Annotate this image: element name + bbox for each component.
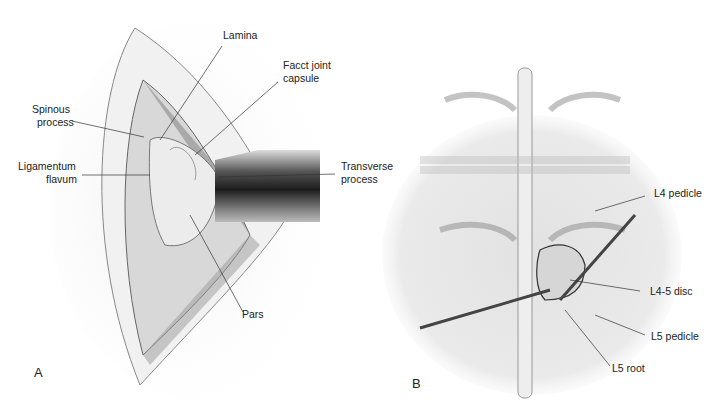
label-l4-pedicle: L4 pedicle (654, 187, 702, 200)
label-ligamentum-flavum-1: Ligamentum (18, 160, 76, 173)
panel-a-letter: A (34, 365, 43, 380)
label-facet-joint-capsule-2: capsule (283, 72, 319, 85)
label-lamina: Lamina (223, 29, 257, 42)
label-transverse-process-1: Transverse (341, 160, 393, 173)
label-l5-pedicle: L5 pedicle (651, 330, 699, 343)
retractor (215, 150, 320, 222)
panel-b-letter: B (412, 376, 421, 391)
panel-b-drawing (382, 68, 682, 398)
illustration (0, 0, 720, 404)
label-spinous-process-2: process (37, 116, 74, 129)
label-spinous-process-1: Spinous (32, 103, 70, 116)
label-l5-root: L5 root (612, 362, 645, 375)
label-facet-joint-capsule-1: Facct joint (283, 59, 331, 72)
label-l4-5-disc: L4-5 disc (650, 285, 693, 298)
label-pars: Pars (242, 308, 264, 321)
label-transverse-process-2: process (341, 173, 378, 186)
label-ligamentum-flavum-2: flavum (46, 173, 77, 186)
